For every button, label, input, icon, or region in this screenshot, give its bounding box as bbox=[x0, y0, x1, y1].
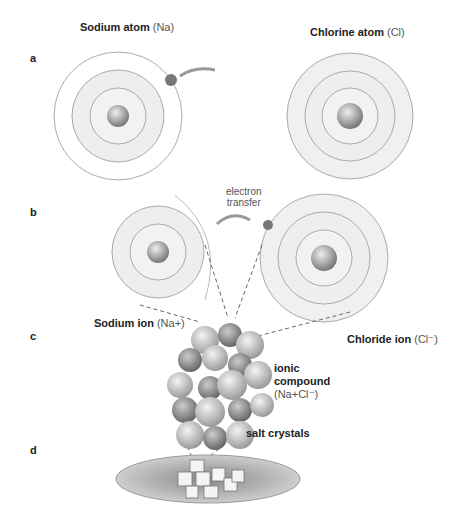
panel-c-label: c bbox=[30, 330, 36, 342]
sodium-atom-title: Sodium atom (Na) bbox=[80, 21, 174, 33]
chlorine-atom-title: Chlorine atom (Cl) bbox=[310, 26, 405, 38]
sodium-ion-label: Sodium ion (Na+) bbox=[94, 317, 185, 329]
sodium-ion-b bbox=[112, 195, 250, 300]
panel-d-label: d bbox=[30, 444, 37, 456]
diagram-graphics bbox=[0, 0, 452, 517]
panel-a-label: a bbox=[30, 52, 36, 64]
panel-b-label: b bbox=[30, 206, 37, 218]
ionic-bonding-diagram: a b c d Sodium atom (Na) Chlorine atom (… bbox=[0, 0, 452, 517]
sodium-atom-a bbox=[54, 52, 215, 180]
electron-transfer-label: electrontransfer bbox=[226, 186, 262, 208]
ionic-compound-label: ioniccompound(Na+Cl⁻) bbox=[274, 362, 330, 401]
salt-crystals-label: salt crystals bbox=[246, 427, 310, 439]
chlorine-atom-a bbox=[287, 53, 413, 179]
chloride-ion-b bbox=[260, 194, 388, 322]
salt-plate bbox=[116, 455, 300, 503]
chloride-ion-label: Chloride ion (Cl⁻) bbox=[347, 333, 438, 346]
